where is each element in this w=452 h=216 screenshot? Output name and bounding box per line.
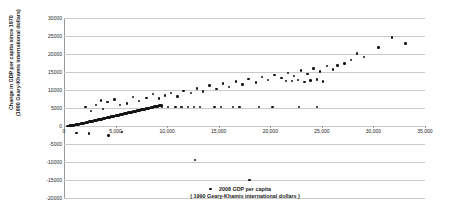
data-point [100, 99, 102, 101]
data-point [303, 81, 305, 83]
x-axis-tick-mark [373, 126, 374, 128]
data-point [306, 73, 308, 75]
y-axis-tick-labels: -20000-15000-10000-500005000100001500020… [30, 18, 62, 198]
x-axis-tick-mark [167, 126, 168, 128]
x-axis-tick-mark [219, 126, 220, 128]
data-point [208, 84, 210, 86]
data-point [190, 92, 192, 94]
data-point [187, 106, 189, 108]
data-point [90, 110, 92, 112]
data-point [95, 104, 97, 106]
data-point [293, 75, 295, 77]
x-axis-tick-mark [116, 126, 117, 128]
scatter-chart: Change in GDP per capita since 1970 (199… [0, 0, 452, 216]
y-axis-title-line2: (1990 Geary-Khamis international dollars… [15, 9, 21, 116]
data-point [152, 93, 154, 95]
data-point [363, 56, 365, 58]
data-point [235, 80, 237, 82]
data-point [164, 94, 166, 96]
data-point [238, 106, 240, 108]
data-point [356, 52, 358, 54]
data-point [280, 77, 282, 79]
data-point [174, 106, 176, 108]
data-point [113, 98, 115, 100]
x-axis-tick-label: 0 [44, 129, 84, 134]
y-axis-tick-label: 10000 [34, 88, 62, 93]
data-point [220, 106, 222, 108]
y-axis-tick-label: -20000 [34, 196, 62, 201]
plot-area [64, 18, 425, 198]
data-point [138, 100, 140, 102]
y-axis-tick-label: -10000 [34, 160, 62, 165]
data-point [297, 79, 299, 81]
gridline [64, 36, 425, 37]
data-point [309, 79, 311, 81]
data-point [267, 79, 269, 81]
data-point [145, 97, 147, 99]
x-axis-tick-label: 15,000 [199, 129, 239, 134]
data-point [391, 36, 393, 38]
y-axis-tick-label: 25000 [34, 34, 62, 39]
x-axis-tick-mark [322, 126, 323, 128]
y-axis-tick-label: 20000 [34, 52, 62, 57]
y-axis-title: Change in GDP per capita since 1970 (199… [0, 0, 24, 135]
x-axis-tick-label: 25,000 [302, 129, 342, 134]
x-axis-title-line1: 2008 GDP per capita [64, 186, 426, 193]
data-point [180, 106, 182, 108]
x-axis-title-line2: ( 1990 Geary-Khamis international dollar… [64, 193, 426, 200]
gridline [64, 18, 425, 19]
data-point [106, 101, 108, 103]
y-axis-tick-label: 15000 [34, 70, 62, 75]
data-point [273, 74, 275, 76]
data-point [326, 65, 328, 67]
x-axis-tick-label: 35,000 [405, 129, 445, 134]
data-point [285, 80, 287, 82]
data-point [261, 76, 263, 78]
y-axis-title-line1: Change in GDP per capita since 1970 [8, 15, 14, 110]
gridline [64, 162, 425, 163]
data-point [255, 81, 257, 83]
gridline [64, 108, 425, 109]
data-point [316, 106, 318, 108]
x-axis-tick-labels: 05,00010,00015,00020,00025,00030,00035,0… [64, 126, 425, 140]
y-axis-tick-label: -15000 [34, 178, 62, 183]
x-axis-tick-label: 5,000 [96, 129, 136, 134]
x-axis-tick-label: 20,000 [250, 129, 290, 134]
data-point [319, 70, 321, 72]
data-point [228, 86, 230, 88]
data-point [271, 106, 273, 108]
x-axis-tick-label: 10,000 [147, 129, 187, 134]
data-point [132, 96, 134, 98]
data-point [336, 64, 338, 66]
gridline [64, 144, 425, 145]
data-point [248, 179, 250, 181]
data-point [322, 80, 324, 82]
gridline [64, 180, 425, 181]
data-point [377, 46, 379, 48]
data-point [287, 72, 289, 74]
gridline [64, 90, 425, 91]
data-point [404, 42, 406, 44]
data-point [170, 92, 172, 94]
y-axis-tick-label: 0 [34, 124, 62, 129]
x-axis-tick-label: 30,000 [353, 129, 393, 134]
data-point [213, 106, 215, 108]
data-point [176, 95, 178, 97]
data-point [126, 102, 128, 104]
data-point [119, 104, 121, 106]
data-point [350, 59, 352, 61]
data-point [182, 90, 184, 92]
y-axis-tick-label: 5000 [34, 106, 62, 111]
data-point [155, 106, 157, 108]
y-axis-tick-label: 30000 [34, 16, 62, 21]
x-axis-title: 2008 GDP per capita ( 1990 Geary-Khamis … [64, 186, 426, 200]
data-point [316, 78, 318, 80]
data-point [222, 82, 224, 84]
x-axis-tick-mark [64, 126, 65, 128]
data-point [247, 78, 249, 80]
data-point [158, 97, 160, 99]
x-axis-tick-mark [425, 126, 426, 128]
gridline [64, 72, 425, 73]
y-axis-tick-label: -5000 [34, 142, 62, 147]
data-point [241, 83, 243, 85]
